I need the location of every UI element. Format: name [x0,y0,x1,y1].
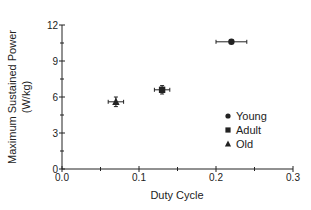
circle-legend-icon [225,113,230,118]
data-point-young [216,39,247,45]
y-axis-label: Maximum Sustained Power [6,30,18,164]
legend-item-adult: Adult [225,124,261,136]
square-legend-icon [225,127,230,132]
x-tick-label: 0.2 [209,172,223,183]
y-axis-units: (W/kg) [20,81,32,113]
y-tick-label: 6 [52,92,58,103]
y-tick-label: 12 [47,20,59,31]
data-point-old [108,97,123,107]
x-tick-label: 0.1 [132,172,146,183]
y-tick-label: 9 [52,56,58,67]
x-axis-label: Duty Cycle [150,189,203,201]
axes [62,25,293,169]
triangle-legend-icon [225,140,231,146]
x-tick-label: 0.3 [286,172,300,183]
legend: YoungAdultOld [225,110,267,150]
y-tick-label: 3 [52,128,58,139]
legend-label: Adult [236,124,261,136]
legend-item-young: Young [225,110,266,122]
legend-label: Young [236,110,267,122]
circle-marker-icon [228,39,234,45]
ticks: 0.00.10.20.3036912 [47,20,301,184]
square-marker-icon [159,87,165,93]
scatter-chart: 0.00.10.20.3036912 YoungAdultOld Duty Cy… [0,0,311,210]
y-tick-label: 0 [52,164,58,175]
legend-item-old: Old [225,138,253,150]
data-point-adult [154,86,169,94]
data-points [108,39,247,107]
legend-label: Old [236,138,253,150]
